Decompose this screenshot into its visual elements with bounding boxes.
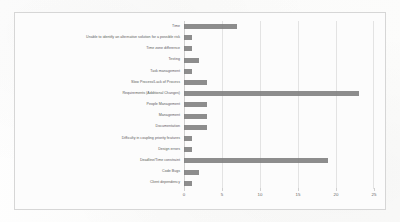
category-label: Client dependency — [150, 181, 180, 185]
category-label: Slow Process/Lack of Process — [131, 81, 180, 85]
bar — [184, 58, 199, 63]
x-tick-mark — [336, 188, 337, 191]
bar-row: Testing — [184, 55, 374, 66]
x-tick-label: 0 — [183, 193, 185, 197]
category-label: Code Bugs — [162, 170, 180, 174]
bar-row: Time zone difference — [184, 43, 374, 54]
chart-frame: TimeUnable to identify an alternative so… — [14, 12, 386, 210]
bar-row: Time — [184, 21, 374, 32]
chart-page: TimeUnable to identify an alternative so… — [0, 0, 400, 222]
bar — [184, 35, 192, 40]
category-label: Management — [159, 114, 180, 118]
bar-rows: TimeUnable to identify an alternative so… — [184, 21, 374, 189]
category-label: Difficulty in coupling priority features — [122, 137, 180, 141]
bar — [184, 69, 192, 74]
x-tick-mark — [374, 188, 375, 191]
category-label: Time zone difference — [146, 47, 180, 51]
bar-row: Deadline/Time constraint — [184, 155, 374, 166]
x-axis: 0510152025 — [184, 191, 374, 205]
bar — [184, 136, 192, 141]
bar — [184, 125, 207, 130]
x-tick-label: 25 — [372, 193, 377, 197]
category-label: Design errors — [158, 148, 180, 152]
category-label: Deadline/Time constraint — [140, 159, 180, 163]
bar — [184, 91, 359, 96]
bar-row: Task management — [184, 66, 374, 77]
bar-row: Slow Process/Lack of Process — [184, 77, 374, 88]
bar — [184, 46, 192, 51]
x-tick-mark — [222, 188, 223, 191]
category-label: People Management — [146, 103, 180, 107]
bar-row: Documentation — [184, 122, 374, 133]
bar-row: Design errors — [184, 144, 374, 155]
bar — [184, 102, 207, 107]
bar — [184, 158, 328, 163]
category-label: Requirements (Additional Changes) — [122, 92, 180, 96]
bar-row: Difficulty in coupling priority features — [184, 133, 374, 144]
bar — [184, 80, 207, 85]
category-label: Task management — [150, 70, 180, 74]
x-tick-label: 15 — [296, 193, 301, 197]
plot-area: TimeUnable to identify an alternative so… — [184, 21, 374, 189]
category-label: Time — [172, 25, 180, 29]
x-tick-label: 20 — [334, 193, 339, 197]
bar — [184, 170, 199, 175]
bar — [184, 24, 237, 29]
category-label: Unable to identify an alternative soluti… — [86, 36, 180, 40]
x-tick-mark — [260, 188, 261, 191]
bar-row: Client dependency — [184, 178, 374, 189]
bar — [184, 181, 192, 186]
category-label: Documentation — [156, 125, 180, 129]
bar-row: Code Bugs — [184, 166, 374, 177]
x-tick-label: 10 — [258, 193, 263, 197]
bar — [184, 147, 192, 152]
bar — [184, 114, 207, 119]
bar-row: People Management — [184, 99, 374, 110]
x-tick-mark — [298, 188, 299, 191]
category-label: Testing — [168, 58, 180, 62]
bar-row: Management — [184, 111, 374, 122]
x-tick-label: 5 — [221, 193, 223, 197]
x-tick-mark — [184, 188, 185, 191]
bar-row: Unable to identify an alternative soluti… — [184, 32, 374, 43]
bar-row: Requirements (Additional Changes) — [184, 88, 374, 99]
